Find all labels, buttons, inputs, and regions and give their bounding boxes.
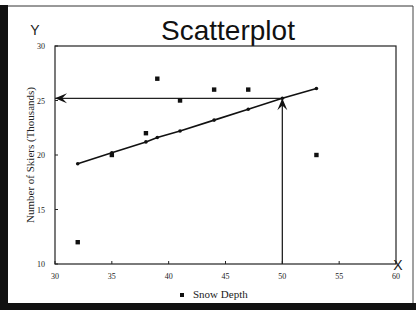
- y-tick-label: 10: [37, 260, 45, 269]
- x-tick-label: 60: [392, 272, 400, 281]
- x-tick-label: 45: [222, 272, 230, 281]
- data-point: [144, 131, 148, 135]
- scatterplot-chart: Scatterplot Y X 303540455055601015202530…: [0, 0, 418, 312]
- x-tick-label: 50: [278, 272, 286, 281]
- legend-marker: [180, 293, 184, 297]
- y-tick-label: 25: [37, 97, 45, 106]
- data-point: [110, 153, 114, 157]
- y-axis-label: Number of Skiers (Thousands): [24, 87, 37, 223]
- y-tick-label: 15: [37, 206, 45, 215]
- legend-label: Snow Depth: [193, 288, 248, 300]
- x-tick-label: 35: [108, 272, 116, 281]
- y-tick-label: 30: [37, 42, 45, 51]
- data-point: [155, 77, 159, 81]
- y-tick-label: 20: [37, 151, 45, 160]
- chart-title: Scatterplot: [161, 15, 295, 46]
- data-point: [314, 153, 318, 157]
- x-tick-label: 55: [335, 272, 343, 281]
- data-point: [76, 240, 80, 244]
- chart-frame: Scatterplot Y X 303540455055601015202530…: [0, 0, 418, 312]
- x-tick-label: 40: [165, 272, 173, 281]
- y-axis-letter: Y: [30, 22, 40, 38]
- data-point: [212, 87, 216, 91]
- x-axis-letter: X: [393, 257, 403, 273]
- x-tick-label: 30: [51, 272, 59, 281]
- data-point: [246, 87, 250, 91]
- data-point: [178, 98, 182, 102]
